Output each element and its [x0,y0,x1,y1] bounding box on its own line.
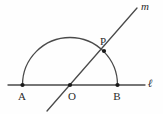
geometry-figure: A O B P ℓ m [0,0,163,114]
point-label-a: A [18,91,26,102]
point-a [20,83,24,87]
point-label-o: O [68,91,76,102]
point-label-b: B [113,91,120,102]
point-b [115,83,119,87]
line-label-m: m [141,1,149,12]
line-m [47,8,137,111]
point-p [102,49,106,53]
line-label-l: ℓ [148,78,153,89]
point-label-p: P [100,36,106,47]
point-o [68,83,72,87]
